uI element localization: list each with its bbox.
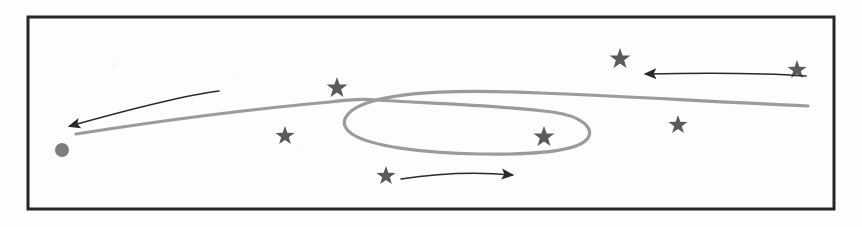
- diagram-canvas: [0, 0, 862, 227]
- star-marker: [275, 126, 294, 144]
- trajectory-entry-segment: [76, 99, 376, 134]
- direction-arrow: [401, 173, 512, 179]
- trajectory-loop-segment: [344, 91, 808, 154]
- star-markers-group: [275, 48, 806, 184]
- figure-root: [0, 0, 862, 227]
- star-marker: [376, 166, 395, 184]
- trajectory-group: [76, 91, 808, 154]
- frame-group: [28, 17, 834, 209]
- border-rectangle: [28, 17, 834, 209]
- star-marker: [327, 77, 348, 97]
- star-marker: [668, 115, 687, 133]
- direction-arrows-group: [70, 73, 806, 179]
- direction-arrow: [646, 73, 806, 76]
- origin-dot: [55, 143, 69, 157]
- direction-arrow: [70, 91, 219, 126]
- star-marker: [610, 48, 631, 68]
- star-marker: [534, 126, 555, 146]
- origin-marker-group: [55, 143, 69, 157]
